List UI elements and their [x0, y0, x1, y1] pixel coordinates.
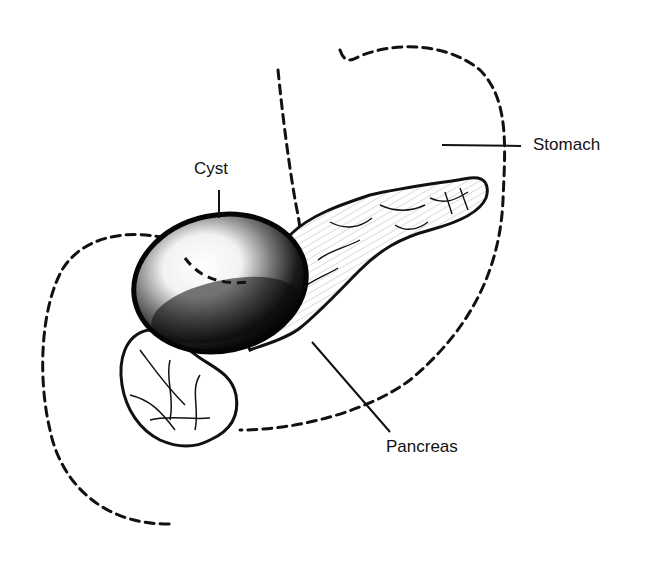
stomach-label: Stomach — [533, 136, 600, 153]
pancreas-label: Pancreas — [386, 438, 458, 455]
cyst-label: Cyst — [194, 160, 228, 177]
anatomy-diagram — [0, 0, 665, 572]
stomach-leader-line — [442, 145, 521, 146]
